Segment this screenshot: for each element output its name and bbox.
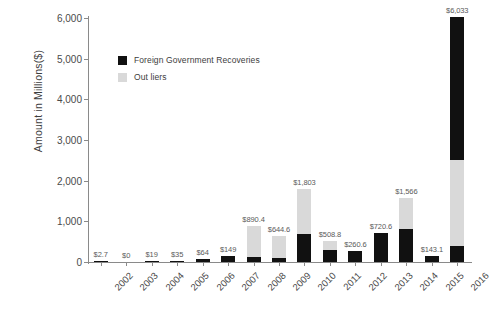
bar-segment: [399, 198, 413, 229]
x-axis-tick-label: 2011: [341, 270, 363, 292]
bar-value-label: $1,566: [395, 187, 417, 196]
bar[interactable]: $149: [221, 256, 235, 262]
bar[interactable]: $890.4: [247, 226, 261, 262]
bar-segment: [450, 160, 464, 245]
x-axis-tick: [203, 262, 204, 266]
x-axis-tick-label: 2002: [112, 270, 135, 293]
legend-item[interactable]: Foreign Government Recoveries: [118, 55, 260, 65]
bar[interactable]: $508.8: [323, 241, 337, 262]
bar-segment: [247, 226, 261, 257]
bar[interactable]: $260.6: [348, 251, 362, 262]
bar-value-label: $6,033: [446, 6, 468, 15]
bar[interactable]: $1,566: [399, 198, 413, 262]
y-axis-tick: [84, 181, 88, 182]
bar[interactable]: $35: [170, 261, 184, 263]
bar-segment: [348, 251, 362, 262]
bar-value-label: $1,803: [293, 178, 315, 187]
legend-label: Foreign Government Recoveries: [134, 55, 260, 65]
x-axis-tick-label: 2009: [290, 270, 313, 293]
bar[interactable]: $644.6: [272, 236, 286, 262]
bar-value-label: $35: [171, 250, 183, 259]
bar-segment: [196, 259, 210, 262]
bar-segment: [297, 234, 311, 262]
bar-value-label: $149: [220, 245, 236, 254]
bar-chart: Amount in Millions($) 01,0002,0003,0004,…: [0, 0, 490, 317]
legend-label: Out liers: [134, 72, 167, 82]
bar[interactable]: $2.7: [94, 261, 108, 263]
bar-value-label: $260.6: [344, 240, 366, 249]
bar[interactable]: $1,803: [297, 189, 311, 262]
bar-segment: [374, 233, 388, 262]
y-axis-title: Amount in Millions($): [32, 11, 44, 191]
bar[interactable]: $19: [145, 261, 159, 263]
bar-segment: [297, 189, 311, 234]
y-axis-tick-label: 6,000: [57, 13, 82, 24]
bar[interactable]: $64: [196, 259, 210, 262]
x-axis-tick-label: 2008: [265, 270, 288, 293]
bar-segment: [272, 258, 286, 262]
x-axis-tick: [101, 262, 102, 266]
x-axis-tick-label: 2015: [443, 270, 466, 293]
x-axis-tick-label: 2005: [188, 270, 211, 293]
bar-segment: [450, 17, 464, 161]
bar-value-label: $644.6: [268, 225, 290, 234]
x-axis-tick-label: 2012: [367, 270, 390, 293]
bar-segment: [323, 241, 337, 249]
x-axis-tick: [177, 262, 178, 266]
bar[interactable]: $143.1: [425, 256, 439, 262]
bar-value-label: $890.4: [242, 215, 264, 224]
x-axis-tick-label: 2003: [137, 270, 160, 293]
x-axis-tick: [457, 262, 458, 266]
bar-segment: [247, 257, 261, 262]
x-axis-tick: [330, 262, 331, 266]
bar-value-label: $2.7: [94, 250, 108, 259]
bar-value-label: $64: [196, 248, 208, 257]
y-axis-tick: [84, 140, 88, 141]
y-axis-tick: [84, 18, 88, 19]
x-axis-tick-label: 2010: [316, 270, 339, 293]
bar[interactable]: $720.6: [374, 233, 388, 262]
legend-item[interactable]: Out liers: [118, 72, 260, 82]
x-axis-tick-label: 2013: [392, 270, 415, 293]
bar-segment: [450, 246, 464, 262]
bar-value-label: $143.1: [421, 245, 443, 254]
x-axis-tick: [279, 262, 280, 266]
y-axis-tick: [84, 221, 88, 222]
bar-segment: [221, 256, 235, 262]
bar-value-label: $508.8: [319, 230, 341, 239]
bar-segment: [272, 236, 286, 258]
legend-swatch-icon: [118, 73, 127, 82]
bar-value-label: $19: [146, 250, 158, 259]
bar-value-label: $0: [122, 251, 130, 260]
y-axis-tick: [84, 262, 88, 263]
bar-value-label: $720.6: [370, 222, 392, 231]
x-axis-tick-label: 2016: [468, 270, 490, 293]
x-axis-tick: [254, 262, 255, 266]
bar[interactable]: $6,033: [450, 17, 464, 262]
x-axis-tick: [228, 262, 229, 266]
x-axis-tick: [355, 262, 356, 266]
y-axis-tick-label: 1,000: [57, 216, 82, 227]
x-axis-tick: [126, 262, 127, 266]
bar-segment: [399, 229, 413, 262]
x-axis-tick: [381, 262, 382, 266]
x-axis-tick-label: 2007: [239, 270, 262, 293]
x-axis-tick: [406, 262, 407, 266]
y-axis-tick: [84, 59, 88, 60]
chart-legend: Foreign Government RecoveriesOut liers: [118, 55, 260, 89]
x-axis-tick: [152, 262, 153, 266]
bar-segment: [323, 250, 337, 262]
x-axis-tick-label: 2006: [214, 270, 237, 293]
bar-segment: [425, 256, 439, 262]
bar-segment: [94, 261, 108, 263]
y-axis-tick-label: 4,000: [57, 94, 82, 105]
legend-swatch-icon: [118, 56, 127, 65]
x-axis-tick-label: 2004: [163, 270, 186, 293]
y-axis-tick-label: 0: [76, 257, 82, 268]
bar-segment: [170, 261, 184, 263]
bar-segment: [145, 261, 159, 263]
y-axis-tick-label: 5,000: [57, 53, 82, 64]
y-axis-tick-label: 2,000: [57, 175, 82, 186]
x-axis-tick: [304, 262, 305, 266]
x-axis-tick: [432, 262, 433, 266]
